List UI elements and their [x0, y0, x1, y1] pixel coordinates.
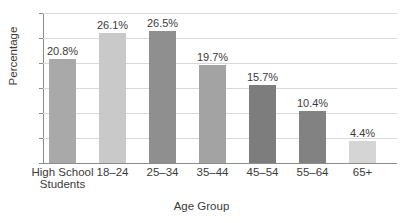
y-tick-10 [39, 113, 43, 114]
y-tick-20 [39, 63, 43, 64]
x-tick-label-65-plus: 65+ [328, 166, 398, 178]
bar-35-44: 19.7% [199, 65, 226, 164]
bar-value-label: 26.5% [147, 18, 178, 29]
bar-25-34: 26.5% [149, 31, 176, 164]
bar-65-plus: 4.4% [349, 141, 376, 163]
bar-value-label: 19.7% [197, 52, 228, 63]
bar-value-label: 15.7% [247, 72, 278, 83]
bar-value-label: 26.1% [97, 20, 128, 31]
x-tick-label-line2: Students [28, 178, 98, 190]
y-tick-5 [39, 138, 43, 139]
bar-value-label: 20.8% [47, 46, 78, 57]
x-axis-title: Age Group [0, 200, 403, 212]
bar-value-label: 4.4% [350, 128, 375, 139]
bar-value-label: 10.4% [297, 98, 328, 109]
bar-45-54: 15.7% [249, 85, 276, 164]
chart-title-clipped [0, 0, 403, 1]
bar-high-school-students: 20.8% [49, 59, 76, 163]
bar-18-24: 26.1% [99, 33, 126, 164]
plot-area: 30 25 20 15 10 5 0 20.8% 26.1% 26.5% 19.… [43, 13, 397, 163]
bar-55-64: 10.4% [299, 111, 326, 163]
bar-chart: Percentage 30 25 20 15 10 5 0 20.8% 26.1… [0, 0, 403, 223]
y-tick-0 [39, 163, 43, 164]
y-tick-25 [39, 38, 43, 39]
x-axis-line [43, 163, 397, 164]
y-axis-title: Percentage [7, 11, 19, 101]
gridline-25 [43, 38, 397, 39]
y-tick-30 [39, 13, 43, 14]
y-tick-15 [39, 88, 43, 89]
gridline-30 [43, 13, 397, 14]
